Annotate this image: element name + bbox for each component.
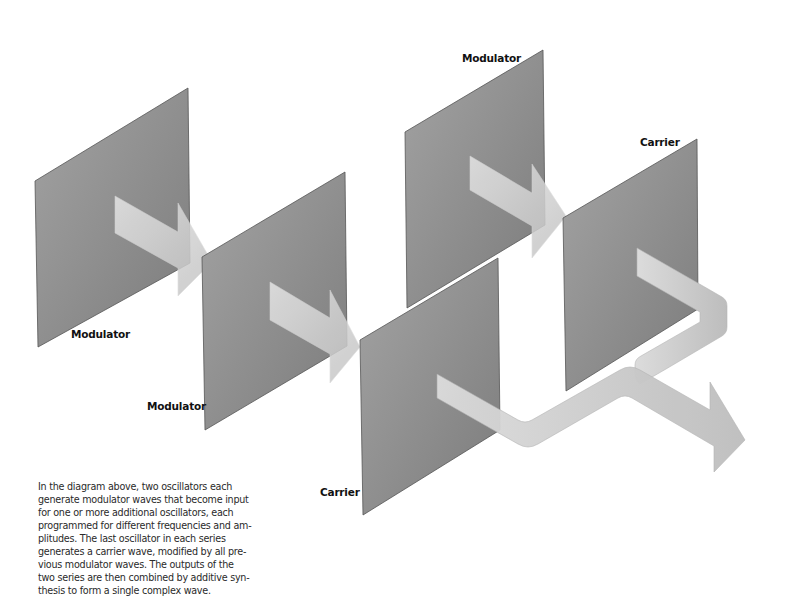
caption-line: vious modulator waves. The outputs of th… [38, 558, 250, 571]
label-osc-1: Modulator [71, 328, 130, 340]
caption-line: two series are then combined by additive… [38, 571, 250, 584]
oscillator-panel-1 [35, 88, 190, 347]
label-osc-3: Carrier [320, 486, 360, 498]
label-osc-5: Carrier [640, 136, 680, 148]
caption-line: generate modulator waves that become inp… [38, 493, 250, 506]
caption-line: for one or more additional oscillators, … [38, 506, 250, 519]
label-osc-2: Modulator [147, 400, 206, 412]
caption-line: programmed for different frequencies and… [38, 519, 250, 532]
caption-line: thesis to form a single complex wave. [38, 584, 250, 597]
oscillator-panel-3 [360, 258, 500, 515]
diagram-caption: In the diagram above, two oscillators ea… [38, 480, 250, 597]
caption-line: In the diagram above, two oscillators ea… [38, 480, 250, 493]
caption-line: plitudes. The last oscillator in each se… [38, 532, 250, 545]
panel-1-plate [35, 88, 190, 347]
label-osc-4: Modulator [462, 52, 521, 64]
caption-line: generates a carrier wave, modified by al… [38, 545, 250, 558]
panel-3-plate [360, 258, 500, 515]
